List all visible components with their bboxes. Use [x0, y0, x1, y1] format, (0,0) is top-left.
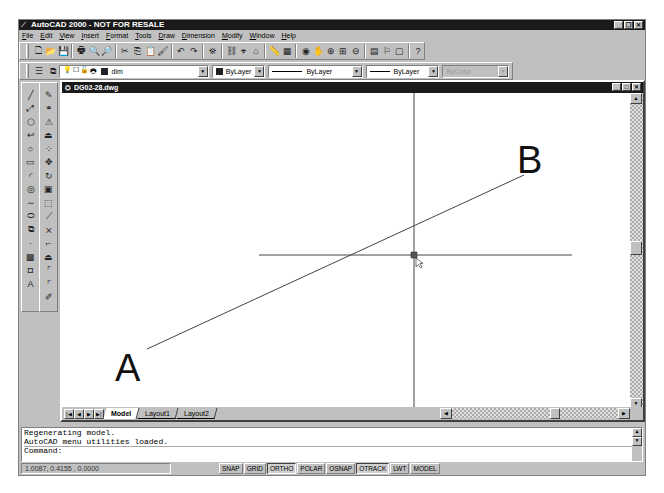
make-block-icon[interactable]: ⧉ — [23, 223, 38, 236]
hatch-icon[interactable]: ▩ — [23, 250, 38, 263]
new-icon[interactable]: 🗋 — [32, 44, 45, 59]
circle-icon[interactable]: ◜ — [23, 169, 38, 182]
scroll-left-button[interactable]: ◀ — [440, 408, 452, 419]
menu-help[interactable]: Help — [281, 32, 295, 39]
spline-icon[interactable]: ◎ — [23, 183, 38, 196]
status-toggle-lwt[interactable]: LWT — [390, 463, 409, 474]
insert-block-icon[interactable]: ⬭ — [23, 210, 38, 223]
command-line-window[interactable]: Regenerating model. AutoCAD menu utiliti… — [21, 427, 643, 462]
vertical-scrollbar[interactable]: ▲ ▼ — [630, 93, 643, 409]
extend-icon[interactable]: ⌐ — [41, 237, 56, 250]
print-icon[interactable]: 🖶 — [75, 44, 88, 59]
ucs-icon[interactable]: ⌂ — [250, 44, 263, 59]
first-tab-button[interactable]: |◀ — [64, 409, 74, 419]
status-toggle-polar[interactable]: POLAR — [297, 463, 325, 474]
make-current-icon[interactable]: ⧉ — [46, 64, 60, 79]
linetype-dropdown[interactable]: ByLayer ▼ — [268, 65, 362, 78]
scroll-right-button[interactable]: ▶ — [618, 408, 630, 419]
menu-insert[interactable]: Insert — [81, 32, 99, 39]
cut-icon[interactable]: ✂ — [119, 44, 132, 59]
zoom-realtime-icon[interactable]: ⊕ — [324, 44, 337, 59]
toolbar-grip[interactable] — [26, 44, 29, 58]
design-center-icon[interactable]: ⚐ — [381, 44, 394, 59]
menu-window[interactable]: Window — [250, 32, 275, 39]
tab-model[interactable]: Model — [104, 408, 140, 419]
status-toggle-otrack[interactable]: OTRACK — [356, 463, 389, 474]
menu-tools[interactable]: Tools — [135, 32, 151, 39]
trim-icon[interactable]: ⨯ — [41, 223, 56, 236]
menu-format[interactable]: Format — [106, 32, 128, 39]
zoom-window-icon[interactable]: ⊞ — [337, 44, 350, 59]
rectangle-icon[interactable]: ○ — [23, 142, 38, 155]
prev-tab-button[interactable]: ◀ — [74, 409, 84, 419]
stretch-icon[interactable]: ⬚ — [41, 196, 56, 209]
scroll-up-button[interactable]: ▲ — [632, 428, 642, 437]
hyperlink-icon[interactable]: ⛓ — [225, 44, 238, 59]
scale-icon[interactable]: ▣ — [41, 183, 56, 196]
named-views-icon[interactable]: ▦ — [281, 44, 294, 59]
copy-icon[interactable]: ⎘ — [132, 44, 145, 59]
copy-object-icon[interactable]: ⚭ — [41, 102, 56, 115]
undo-icon[interactable]: ↶ — [175, 44, 188, 59]
menu-view[interactable]: View — [59, 32, 74, 39]
point-icon[interactable]: · — [23, 237, 38, 250]
open-icon[interactable]: 📂 — [44, 44, 57, 59]
menu-edit[interactable]: Edit — [40, 32, 52, 39]
drawing-canvas[interactable]: A B — [62, 93, 630, 409]
restore-button[interactable]: ❐ — [624, 21, 633, 29]
find-icon[interactable]: 🔎 — [100, 44, 113, 59]
status-toggle-snap[interactable]: SNAP — [219, 463, 243, 474]
polyline-icon[interactable]: ⬡ — [23, 115, 38, 128]
offset-icon[interactable]: ⏏ — [41, 129, 56, 142]
tab-layout1[interactable]: Layout1 — [138, 408, 179, 419]
construction-line-icon[interactable]: ⤢ — [23, 102, 38, 115]
close-button[interactable]: ✕ — [632, 83, 641, 91]
last-tab-button[interactable]: ▶| — [94, 409, 104, 419]
fillet-icon[interactable]: ⌜ — [41, 277, 56, 290]
chevron-down-icon[interactable]: ▼ — [198, 66, 208, 77]
toolbar-grip[interactable] — [26, 64, 29, 78]
status-toggle-grid[interactable]: GRID — [244, 463, 266, 474]
multiline-text-icon[interactable]: A — [23, 277, 38, 290]
horizontal-scroll-thumb[interactable] — [550, 408, 560, 419]
object-snap-icon[interactable]: ⌖ — [237, 44, 250, 59]
erase-icon[interactable]: ✎ — [41, 88, 56, 101]
menu-dimension[interactable]: Dimension — [182, 32, 215, 39]
tab-layout2[interactable]: Layout2 — [177, 408, 218, 419]
explode-icon[interactable]: ✐ — [41, 291, 56, 304]
menu-draw[interactable]: Draw — [158, 32, 174, 39]
menu-modify[interactable]: Modify — [222, 32, 243, 39]
zoom-previous-icon[interactable]: ⊖ — [350, 44, 363, 59]
mirror-icon[interactable]: ⚠ — [41, 115, 56, 128]
paste-icon[interactable]: 📋 — [144, 44, 157, 59]
command-input[interactable]: Command: — [24, 446, 642, 456]
minimize-button[interactable]: _ — [614, 21, 623, 29]
lineweight-dropdown[interactable]: ByLayer ▼ — [366, 65, 440, 78]
scroll-down-button[interactable]: ▼ — [632, 437, 642, 446]
menu-file[interactable]: File — [22, 32, 33, 39]
chevron-down-icon[interactable]: ▼ — [428, 66, 438, 77]
save-icon[interactable]: 💾 — [57, 44, 70, 59]
vertical-scroll-thumb[interactable] — [630, 241, 642, 255]
line-icon[interactable]: ╱ — [23, 88, 38, 101]
help-icon[interactable]: ? — [412, 44, 425, 59]
scroll-up-button[interactable]: ▲ — [630, 93, 642, 104]
publish-icon[interactable]: ⛯ — [206, 44, 219, 59]
chevron-down-icon[interactable]: ▼ — [352, 66, 362, 77]
break-icon[interactable]: ⏏ — [41, 250, 56, 263]
arc-icon[interactable]: ▭ — [23, 156, 38, 169]
status-toggle-model[interactable]: MODEL — [410, 463, 439, 474]
match-properties-icon[interactable]: 🖌 — [157, 44, 170, 59]
status-toggle-ortho[interactable]: ORTHO — [267, 463, 296, 474]
redo-icon[interactable]: ↷ — [188, 44, 201, 59]
today-icon[interactable]: ▢ — [393, 44, 406, 59]
region-icon[interactable]: ◘ — [23, 264, 38, 277]
command-scrollbar[interactable]: ▲ ▼ — [632, 428, 642, 461]
close-button[interactable]: ✕ — [634, 21, 643, 29]
layer-manager-icon[interactable]: ☰ — [32, 64, 46, 79]
color-dropdown[interactable]: ByLayer ▼ — [212, 65, 266, 78]
chevron-down-icon[interactable]: ▼ — [254, 66, 264, 77]
array-icon[interactable]: ⁘ — [41, 142, 56, 155]
status-toggle-osnap[interactable]: OSNAP — [326, 463, 355, 474]
chamfer-icon[interactable]: ⌜ — [41, 264, 56, 277]
